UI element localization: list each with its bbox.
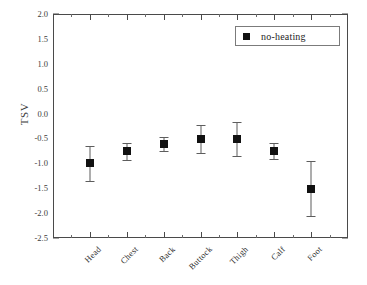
x-tick-minor-mark [219, 235, 220, 238]
error-bar-cap [307, 216, 316, 217]
data-point-marker[interactable] [270, 147, 278, 155]
legend-marker-icon [243, 33, 250, 40]
x-tick-mark [164, 232, 165, 238]
x-tick-mark [164, 14, 165, 20]
x-tick-minor-mark [108, 14, 109, 17]
error-bar-cap [307, 161, 316, 162]
x-tick-label: Thigh [228, 244, 250, 266]
x-tick-label: Buttock [186, 244, 214, 272]
x-tick-minor-mark [293, 14, 294, 17]
y-tick-label: -1.0 [0, 158, 53, 168]
error-bar-cap [196, 153, 205, 154]
y-tick-label: -1.5 [0, 183, 53, 193]
chart-root: TSV 2.01.51.00.50.0-0.5-1.0-1.5-2.0-2.5 … [0, 0, 367, 285]
y-tick-label: -2.5 [0, 233, 53, 243]
x-tick-minor-mark [71, 235, 72, 238]
x-tick-minor-mark [293, 235, 294, 238]
y-tick-label: 0.5 [0, 84, 53, 94]
error-bar-cap [122, 160, 131, 161]
x-tick-minor-mark [108, 235, 109, 238]
x-tick-mark [237, 14, 238, 20]
x-tick-minor-mark [256, 14, 257, 17]
error-bar-cap [85, 181, 94, 182]
data-point-marker[interactable] [123, 147, 131, 155]
x-tick-minor-mark [145, 14, 146, 17]
x-tick-minor-mark [182, 14, 183, 17]
data-point-marker[interactable] [86, 159, 94, 167]
x-tick-label: Calf [269, 244, 287, 262]
data-point-marker[interactable] [307, 185, 315, 193]
error-bar-cap [233, 122, 242, 123]
error-bar-cap [85, 146, 94, 147]
x-tick-minor-mark [71, 14, 72, 17]
x-tick-minor-mark [256, 235, 257, 238]
x-tick-minor-mark [219, 14, 220, 17]
x-tick-label: Foot [305, 244, 324, 263]
x-tick-minor-mark [182, 235, 183, 238]
error-bar-cap [270, 143, 279, 144]
x-tick-mark [311, 14, 312, 20]
x-tick-label: Head [82, 244, 103, 265]
x-tick-mark [274, 14, 275, 20]
error-bar-cap [196, 125, 205, 126]
error-bar-cap [122, 143, 131, 144]
error-bar-cap [159, 151, 168, 152]
data-point-marker[interactable] [233, 135, 241, 143]
x-tick-minor-mark [145, 235, 146, 238]
x-tick-mark [274, 232, 275, 238]
y-tick-label: 1.0 [0, 59, 53, 69]
legend-label: no-heating [261, 31, 306, 42]
x-tick-minor-mark [330, 235, 331, 238]
legend[interactable]: no-heating [235, 26, 340, 46]
y-tick-label: 1.5 [0, 34, 53, 44]
error-bar-cap [270, 159, 279, 160]
x-tick-mark [201, 232, 202, 238]
error-bar-cap [159, 137, 168, 138]
x-tick-mark [311, 232, 312, 238]
x-tick-mark [127, 14, 128, 20]
y-tick-label: 0.0 [0, 109, 53, 119]
x-tick-label: Chest [118, 244, 140, 266]
data-point-marker[interactable] [160, 140, 168, 148]
data-point-marker[interactable] [197, 135, 205, 143]
y-tick-label: 2.0 [0, 9, 53, 19]
x-tick-mark [127, 232, 128, 238]
x-tick-mark [90, 232, 91, 238]
x-tick-mark [201, 14, 202, 20]
y-tick-label: -2.0 [0, 208, 53, 218]
x-tick-minor-mark [330, 14, 331, 17]
y-tick-label: -0.5 [0, 133, 53, 143]
x-tick-label: Back [156, 244, 176, 264]
x-tick-mark [90, 14, 91, 20]
error-bar-cap [233, 156, 242, 157]
x-tick-mark [237, 232, 238, 238]
